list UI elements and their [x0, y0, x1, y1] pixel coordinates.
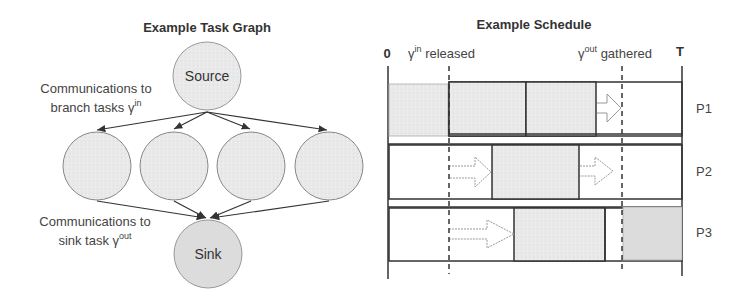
branch-nodes — [63, 132, 363, 200]
processor-label-p2: P2 — [696, 164, 712, 179]
branch-node — [217, 132, 285, 200]
annotation-out-line1: Communications to — [39, 214, 150, 229]
branch-node — [295, 132, 363, 200]
source-node: Source — [173, 42, 241, 110]
processor-row-p3: P3 — [389, 207, 712, 261]
axis-end-label: T — [676, 44, 684, 59]
schedule-title: Example Schedule — [477, 17, 592, 32]
annotation-in-line2: branch tasks γin — [51, 98, 142, 115]
processor-label-p3: P3 — [696, 225, 712, 240]
sink-label: Sink — [194, 246, 222, 262]
source-label: Source — [185, 68, 230, 84]
annotation-out-line2: sink task γout — [58, 231, 132, 248]
branch-node — [140, 132, 208, 200]
schedule: Example Schedule 0 T γin released γout g… — [383, 17, 712, 279]
marker-in-label: γin released — [408, 44, 475, 61]
task-graph: Example Task Graph Source — [39, 20, 363, 288]
sink-node: Sink — [174, 220, 242, 288]
processor-row-p2: P2 — [389, 145, 712, 199]
processor-row-p1: P1 — [389, 82, 712, 136]
axis-start-label: 0 — [383, 46, 390, 61]
branch-node — [63, 132, 131, 200]
marker-out-label: γout gathered — [578, 44, 652, 61]
processor-label-p1: P1 — [696, 101, 712, 116]
task-graph-title: Example Task Graph — [143, 20, 271, 35]
annotation-in-line1: Communications to — [40, 81, 151, 96]
